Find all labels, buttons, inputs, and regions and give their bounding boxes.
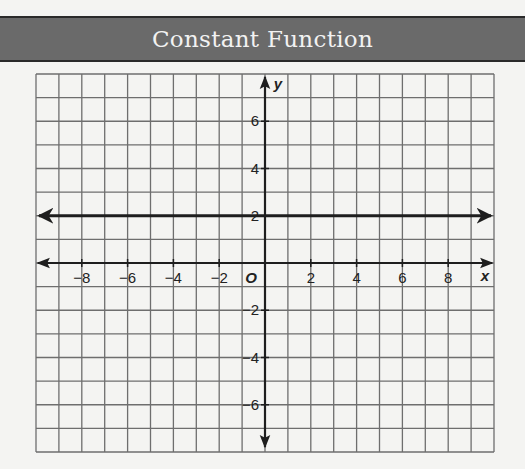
x-tick-label: 2 [307, 269, 315, 286]
x-axis-label: x [480, 267, 490, 284]
y-tick-label: −6 [242, 396, 259, 413]
y-axis-label: y [273, 75, 283, 92]
x-tick-label: −4 [165, 269, 182, 286]
x-tick-label: 8 [444, 269, 452, 286]
x-tick-label: 6 [398, 269, 406, 286]
x-tick-label: −8 [73, 269, 90, 286]
coordinate-plane: −8−6−4−22468642−2−4−6Oxy [0, 0, 525, 469]
origin-label: O [245, 269, 257, 286]
y-tick-label: 4 [251, 160, 259, 177]
x-tick-label: −6 [119, 269, 136, 286]
x-tick-label: 4 [352, 269, 360, 286]
y-tick-label: −2 [242, 301, 259, 318]
y-tick-label: −4 [242, 349, 259, 366]
x-tick-label: −2 [211, 269, 228, 286]
y-tick-label: 6 [251, 112, 259, 129]
